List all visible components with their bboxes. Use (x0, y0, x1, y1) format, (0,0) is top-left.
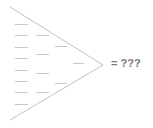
dash-marks (15, 25, 84, 105)
wedge-outline (10, 7, 103, 120)
result-label: = ??? (111, 57, 141, 70)
